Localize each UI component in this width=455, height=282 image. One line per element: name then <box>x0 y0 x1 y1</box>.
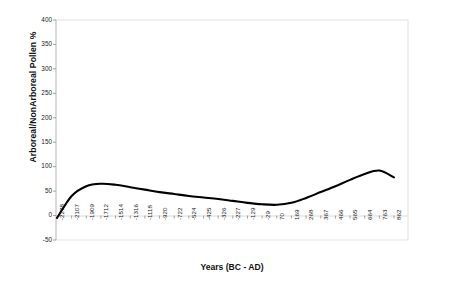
x-axis-tick-label-text: -524 <box>191 207 197 219</box>
x-axis-tick-label-text: -920 <box>162 207 168 219</box>
x-axis-tick-label-text: 466 <box>338 209 344 219</box>
x-axis-tick-label-text: 862 <box>396 209 402 219</box>
x-axis-tick-label-text: -2107 <box>74 204 80 220</box>
x-axis-tick-label-text: 70 <box>279 213 285 220</box>
x-axis-tick-labels: -2278-2107-1909-1712-1514-1316-1118-920-… <box>0 0 455 282</box>
x-axis-tick-label-text: 763 <box>382 209 388 219</box>
x-axis-tick-label-text: -1909 <box>89 204 95 220</box>
x-axis-tick-label-text: -722 <box>177 207 183 219</box>
x-axis-tick-label-text: -29 <box>265 211 271 220</box>
x-axis-tick-label-text: -227 <box>235 207 241 219</box>
x-axis-tick-label-text: -129 <box>250 207 256 219</box>
x-axis-tick-label-text: 169 <box>294 209 300 219</box>
x-axis-tick-label-text: 367 <box>323 209 329 219</box>
x-axis-tick-label-text: -1316 <box>133 204 139 220</box>
x-axis-tick-label-text: -425 <box>206 207 212 219</box>
x-axis-tick-label-text: -326 <box>221 207 227 219</box>
x-axis-tick-label-text: -1118 <box>147 205 153 220</box>
x-axis-tick-label-text: 664 <box>367 209 373 219</box>
x-axis-tick-label-text: -2278 <box>59 204 65 220</box>
x-axis-title: Years (BC - AD) <box>56 262 408 272</box>
x-axis-tick-label-text: -1712 <box>103 204 109 220</box>
x-axis-tick-label-text: -1514 <box>118 204 124 220</box>
pollen-line-chart: Arboreal/NonArboreal Pollen % 4003503002… <box>0 0 455 282</box>
x-axis-tick-label-text: 268 <box>308 209 314 219</box>
x-axis-tick-label-text: 565 <box>352 209 358 219</box>
